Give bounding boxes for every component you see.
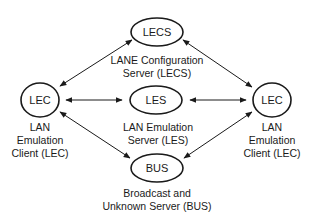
bus-caption-line2: Unknown Server (BUS)	[102, 200, 211, 212]
les-label: LES	[146, 94, 167, 106]
lec-right-caption-line3: Client (LEC)	[243, 147, 300, 159]
node-lec-left: LEC LAN Emulation Client (LEC)	[11, 83, 68, 159]
lecs-label: LECS	[143, 26, 172, 38]
node-bus: BUS Broadcast and Unknown Server (BUS)	[102, 154, 211, 212]
node-lecs: LECS LANE Configuration Server (LECS)	[111, 18, 204, 79]
node-lec-right: LEC LAN Emulation Client (LEC)	[243, 83, 300, 159]
lec-right-label: LEC	[261, 94, 282, 106]
lane-diagram: LECS LANE Configuration Server (LECS) LE…	[0, 0, 314, 222]
edge-lec-left-bus	[60, 112, 130, 158]
lecs-caption-line2: Server (LECS)	[123, 67, 191, 79]
lec-right-caption-line1: LAN	[262, 121, 282, 133]
bus-caption-line1: Broadcast and	[123, 187, 191, 199]
lec-left-caption-line1: LAN	[30, 121, 50, 133]
edge-lec-right-bus	[184, 112, 252, 158]
lec-right-caption-line2: Emulation	[249, 134, 296, 146]
les-caption-line1: LAN Emulation	[123, 121, 193, 133]
lec-left-caption-line3: Client (LEC)	[11, 147, 68, 159]
node-les: LES LAN Emulation Server (LES)	[123, 86, 193, 146]
bus-label: BUS	[146, 162, 169, 174]
lec-left-label: LEC	[29, 94, 50, 106]
lec-left-caption-line2: Emulation	[17, 134, 64, 146]
lecs-caption-line1: LANE Configuration	[111, 54, 204, 66]
les-caption-line2: Server (LES)	[128, 134, 189, 146]
